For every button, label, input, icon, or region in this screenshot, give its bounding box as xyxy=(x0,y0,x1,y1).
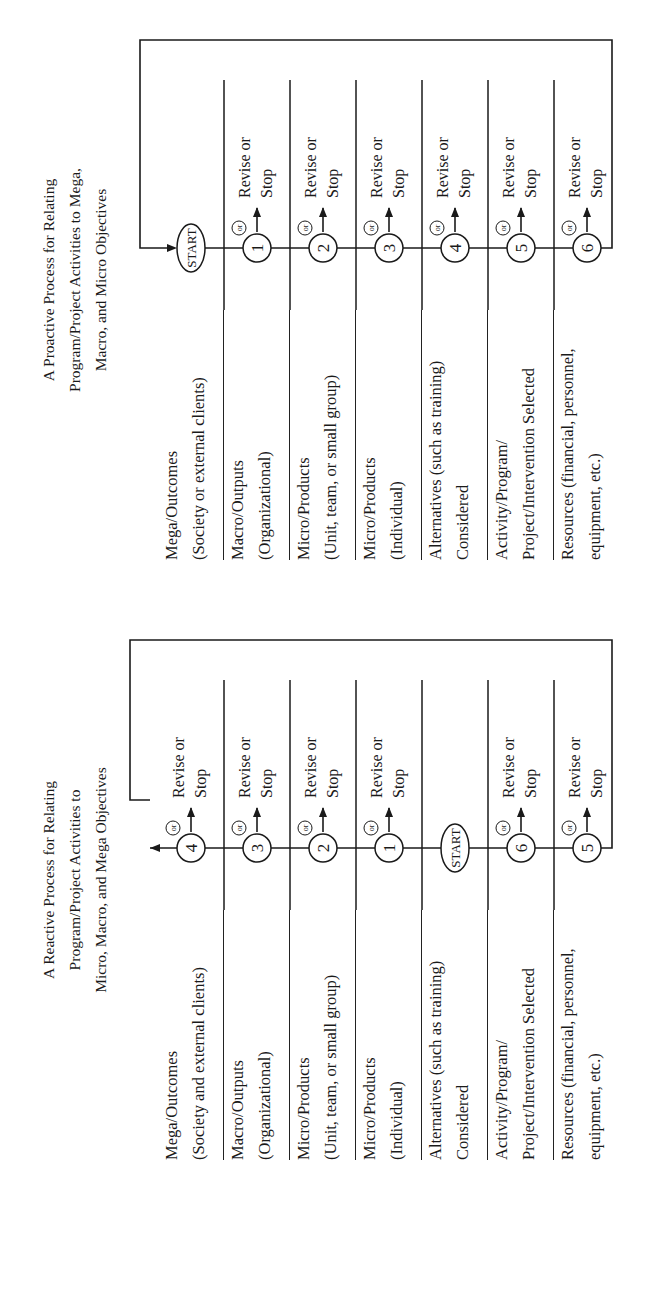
svg-text:Stop: Stop xyxy=(522,769,540,798)
svg-text:Revise or: Revise or xyxy=(236,136,253,198)
reactive-process-panel: A Reactive Process for Relating Program/… xyxy=(0,600,659,1160)
svg-text:3: 3 xyxy=(248,844,267,853)
svg-text:Revise or: Revise or xyxy=(434,136,451,198)
exit-4: or Revise or Stop xyxy=(166,736,210,835)
svg-text:Stop: Stop xyxy=(456,169,474,198)
svg-text:Revise or: Revise or xyxy=(302,136,319,198)
svg-text:Revise or: Revise or xyxy=(500,736,517,798)
svg-text:6: 6 xyxy=(512,844,531,853)
svg-text:Revise or: Revise or xyxy=(566,736,583,798)
svg-text:or: or xyxy=(499,224,508,231)
proactive-node-2: 2 xyxy=(309,234,337,262)
svg-text:Revise or: Revise or xyxy=(566,136,583,198)
svg-text:5: 5 xyxy=(512,244,531,253)
reactive-node-5: 5 xyxy=(573,834,601,862)
exit-4: or Revise or Stop xyxy=(430,136,474,235)
proactive-flow-diagram: START 1 2 3 4 5 xyxy=(0,0,659,560)
svg-text:Stop: Stop xyxy=(522,169,540,198)
svg-text:Stop: Stop xyxy=(258,769,276,798)
svg-text:Stop: Stop xyxy=(588,769,606,798)
svg-text:or: or xyxy=(169,824,178,831)
svg-text:START: START xyxy=(448,828,463,867)
exit-3: or Revise or Stop xyxy=(364,136,408,235)
svg-text:or: or xyxy=(235,824,244,831)
svg-text:or: or xyxy=(433,224,442,231)
proactive-node-1: 1 xyxy=(243,234,271,262)
svg-text:1: 1 xyxy=(248,244,267,253)
svg-text:or: or xyxy=(367,824,376,831)
reactive-flow-diagram: 4 3 2 1 START 6 xyxy=(0,600,659,1160)
exit-2: or Revise or Stop xyxy=(298,136,342,235)
exit-5: or Revise or Stop xyxy=(562,736,606,835)
proactive-node-4: 4 xyxy=(441,234,469,262)
reactive-node-3: 3 xyxy=(243,834,271,862)
arrow-icon xyxy=(167,244,177,252)
svg-text:or: or xyxy=(565,224,574,231)
svg-text:Stop: Stop xyxy=(588,169,606,198)
proactive-exits: or Revise or Stop or Revise or Stop or xyxy=(232,136,606,235)
arrow-icon xyxy=(150,844,160,852)
svg-text:Revise or: Revise or xyxy=(236,736,253,798)
reactive-node-6: 6 xyxy=(507,834,535,862)
svg-text:Stop: Stop xyxy=(324,169,342,198)
figure-canvas: A Reactive Process for Relating Program/… xyxy=(0,0,659,1297)
svg-text:START: START xyxy=(184,228,199,267)
svg-text:or: or xyxy=(235,224,244,231)
svg-text:Stop: Stop xyxy=(390,769,408,798)
exit-1: or Revise or Stop xyxy=(364,736,408,835)
svg-text:or: or xyxy=(301,824,310,831)
svg-text:4: 4 xyxy=(182,843,201,852)
svg-text:Revise or: Revise or xyxy=(302,736,319,798)
svg-text:Stop: Stop xyxy=(324,769,342,798)
exit-6: or Revise or Stop xyxy=(562,136,606,235)
proactive-node-3: 3 xyxy=(375,234,403,262)
proactive-process-panel: A Proactive Process for Relating Program… xyxy=(0,0,659,560)
exit-5: or Revise or Stop xyxy=(496,136,540,235)
exit-3: or Revise or Stop xyxy=(232,736,276,835)
proactive-start-node: START xyxy=(177,224,205,272)
exit-1: or Revise or Stop xyxy=(232,136,276,235)
reactive-node-4: 4 xyxy=(177,834,205,862)
exit-2: or Revise or Stop xyxy=(298,736,342,835)
svg-text:6: 6 xyxy=(578,244,597,253)
svg-text:3: 3 xyxy=(380,244,399,253)
svg-text:2: 2 xyxy=(314,244,333,253)
svg-text:Revise or: Revise or xyxy=(500,136,517,198)
svg-text:Stop: Stop xyxy=(390,169,408,198)
svg-text:Stop: Stop xyxy=(192,769,210,798)
svg-text:or: or xyxy=(301,224,310,231)
svg-text:Revise or: Revise or xyxy=(170,736,187,798)
proactive-node-6: 6 xyxy=(573,234,601,262)
reactive-start-node: START xyxy=(441,824,469,872)
reactive-node-1: 1 xyxy=(375,834,403,862)
svg-text:or: or xyxy=(499,824,508,831)
svg-text:1: 1 xyxy=(380,844,399,853)
svg-text:Revise or: Revise or xyxy=(368,136,385,198)
reactive-node-2: 2 xyxy=(309,834,337,862)
svg-text:5: 5 xyxy=(578,844,597,853)
svg-text:or: or xyxy=(367,224,376,231)
svg-text:Revise or: Revise or xyxy=(368,736,385,798)
exit-6: or Revise or Stop xyxy=(496,736,540,835)
reactive-exits: or Revise or Stop or Revise or Stop or xyxy=(166,736,606,835)
svg-text:or: or xyxy=(565,824,574,831)
svg-text:Stop: Stop xyxy=(258,169,276,198)
svg-text:4: 4 xyxy=(446,243,465,252)
proactive-node-5: 5 xyxy=(507,234,535,262)
svg-text:2: 2 xyxy=(314,844,333,853)
